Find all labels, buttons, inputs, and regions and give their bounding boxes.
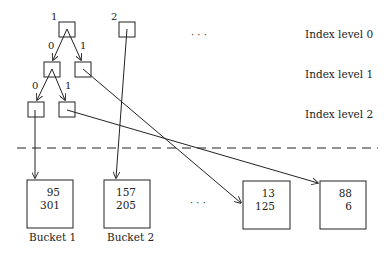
bucket-3-value-1: 13 [262, 187, 275, 199]
edge-label-l1-0: 0 [32, 80, 38, 91]
bucket-4-value-2: 6 [345, 200, 352, 212]
bucket-2-value-1: 157 [116, 186, 136, 198]
bucket-1-value-1: 95 [47, 186, 60, 198]
bucket-2-label: Bucket 2 [107, 231, 154, 243]
index-diagram: 1 2 · · · 0 1 0 1 Index level 0 Index le… [0, 0, 389, 253]
edge-l1-right [52, 69, 65, 100]
index-level-0-label: Index level 0 [305, 28, 373, 40]
bucket-2-value-2: 205 [116, 199, 136, 211]
index-level-2-label: Index level 2 [305, 108, 373, 120]
level2-node-right [59, 102, 75, 117]
index-level-1-label: Index level 1 [305, 68, 373, 80]
bucket-1-label: Bucket 1 [29, 231, 76, 243]
bucket-4-value-1: 88 [339, 187, 352, 199]
bucket-3-value-2: 125 [255, 200, 275, 212]
pointer-to-bucket-3 [83, 69, 241, 203]
edge-root1-right [67, 29, 81, 60]
edge-label-l1-1: 1 [65, 80, 71, 91]
bucket-1-value-2: 301 [40, 199, 60, 211]
edge-root1-left [53, 29, 67, 60]
level2-node-left [28, 102, 44, 117]
pointer-to-bucket-2 [116, 29, 127, 178]
edge-label-l0-0: 0 [48, 40, 54, 51]
ellipsis-bottom: · · · [190, 197, 206, 208]
root-node-2-label: 2 [111, 11, 117, 22]
root-node-1-label: 1 [51, 11, 57, 22]
pointer-to-bucket-4 [67, 110, 318, 183]
ellipsis-top: · · · [191, 29, 207, 40]
edge-label-l0-1: 1 [80, 40, 86, 51]
